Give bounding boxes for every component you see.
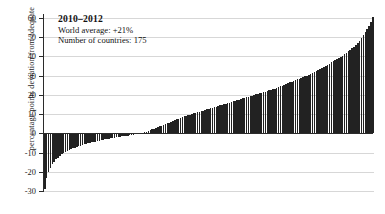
y-axis-tick-label: -10	[2, 148, 36, 157]
y-axis-tick	[39, 76, 44, 77]
y-axis-tick	[39, 153, 44, 154]
y-axis-tick	[39, 191, 44, 192]
y-axis-tick-label: 0	[2, 129, 36, 138]
y-axis-tick-label: 50	[2, 33, 36, 42]
bar	[372, 17, 374, 133]
y-axis-tick-label: 60	[2, 13, 36, 22]
y-axis-tick	[39, 114, 44, 115]
y-axis-tick-label: 30	[2, 71, 36, 80]
chart-title: 2010–2012	[58, 13, 147, 25]
world-average-text: World average: +21%	[58, 25, 147, 35]
chart-canvas: percentage points deviation from adequat…	[0, 0, 385, 214]
y-axis-line	[43, 14, 44, 192]
y-axis-tick	[39, 56, 44, 57]
y-axis-tick-label: 20	[2, 90, 36, 99]
y-axis-tick	[39, 172, 44, 173]
y-axis-tick	[39, 95, 44, 96]
country-count-text: Number of countries: 175	[58, 35, 147, 45]
y-axis-tick	[39, 18, 44, 19]
y-axis-label: percentage points deviation from adequat…	[27, 0, 36, 172]
y-axis-tick	[39, 133, 44, 134]
chart-annotation-block: 2010–2012 World average: +21% Number of …	[58, 13, 147, 46]
gridline	[44, 191, 374, 192]
y-axis-tick-label: 10	[2, 110, 36, 119]
zero-line	[44, 133, 373, 134]
y-axis-tick-label: -30	[2, 187, 36, 196]
y-axis-tick-label: 40	[2, 52, 36, 61]
y-axis-tick-label: -20	[2, 167, 36, 176]
y-axis-tick	[39, 37, 44, 38]
